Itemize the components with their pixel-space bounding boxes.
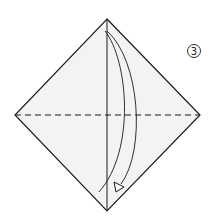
origami-diagram: 3 xyxy=(0,0,215,221)
step-number-badge: 3 xyxy=(188,45,201,58)
step-number-text: 3 xyxy=(191,46,197,57)
